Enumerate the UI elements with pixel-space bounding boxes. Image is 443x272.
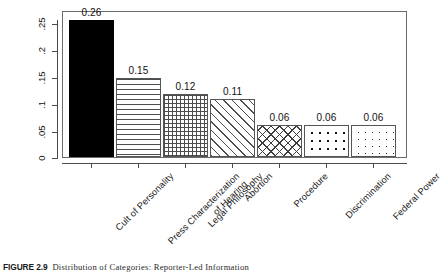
figure-caption: FIGURE 2.9 Distribution of Categories: R… — [3, 262, 420, 272]
x-axis-tick — [232, 163, 233, 168]
y-axis-tick — [52, 78, 57, 79]
x-axis-category-press-characterization-of-hearing: Press Characterization of Hearing — [166, 171, 250, 255]
x-axis-category-federal-power: Federal Power — [391, 171, 442, 222]
x-axis-tick — [91, 163, 92, 168]
figure-caption-text: Distribution of Categories: Reporter-Led… — [52, 262, 249, 272]
y-axis-tick — [52, 158, 57, 159]
x-axis-category-cult-of-personality: Cult of Personality — [114, 171, 176, 233]
y-axis-line — [57, 20, 58, 159]
bar-value-label-legal-philosophy: 0.12 — [163, 81, 208, 92]
y-axis-tick — [52, 132, 57, 133]
bar-federal-power[interactable] — [351, 125, 396, 157]
y-axis-label-02: .2 — [34, 45, 50, 57]
x-axis-tick — [279, 163, 280, 168]
bar-chart-plot: .25 .2 .15 .1 .05 0 0.26 0.15 0. — [0, 0, 423, 250]
x-axis-line — [62, 163, 407, 164]
x-axis-tick — [185, 163, 186, 168]
figure-caption-label: FIGURE 2.9 — [3, 262, 48, 272]
bar-value-label-federal-power: 0.06 — [351, 112, 396, 123]
y-axis-label-025: .25 — [34, 18, 50, 30]
bar-cult-of-personality[interactable] — [69, 20, 114, 157]
bar-abortion[interactable] — [210, 99, 255, 157]
x-axis-tick — [326, 163, 327, 168]
x-axis-tick — [138, 163, 139, 168]
x-axis-category-procedure: Procedure — [292, 171, 331, 210]
y-axis-tick — [52, 51, 57, 52]
bar-value-label-procedure: 0.06 — [257, 112, 302, 123]
y-axis-tick — [52, 24, 57, 25]
bar-legal-philosophy[interactable] — [163, 94, 208, 157]
y-axis-label-0: 0 — [34, 152, 50, 164]
bars-layer — [62, 11, 407, 157]
x-axis-tick — [373, 163, 374, 168]
bar-value-label-discrimination: 0.06 — [304, 112, 349, 123]
y-axis-label-01: .1 — [34, 99, 50, 111]
bar-value-label-press-characterization: 0.15 — [116, 65, 161, 76]
bar-value-label-abortion: 0.11 — [210, 86, 255, 97]
bar-procedure[interactable] — [257, 125, 302, 157]
bar-value-label-cult-of-personality: 0.26 — [69, 7, 114, 18]
y-axis-label-015: .15 — [34, 72, 50, 84]
bar-press-characterization-of-hearing[interactable] — [116, 78, 161, 157]
bar-discrimination[interactable] — [304, 125, 349, 157]
x-axis-category-discrimination: Discrimination — [344, 171, 394, 221]
y-axis-tick — [52, 105, 57, 106]
y-axis-label-005: .05 — [34, 126, 50, 138]
